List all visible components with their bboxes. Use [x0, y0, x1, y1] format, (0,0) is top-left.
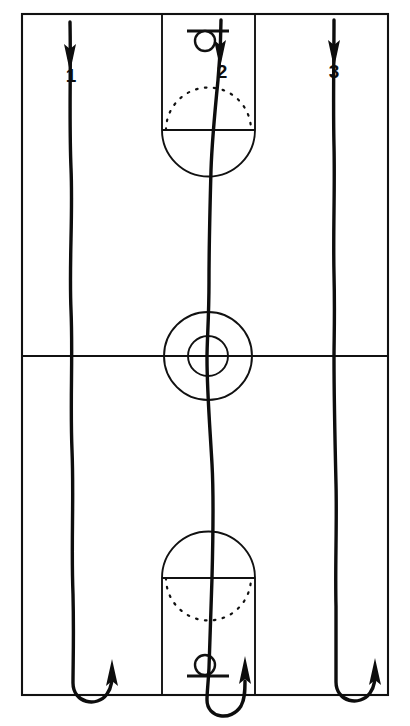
player-label-3: 3 — [329, 61, 340, 82]
free-throw-arc-bottom-dotted — [166, 578, 251, 621]
player-path-1[interactable]: 1 — [64, 22, 118, 702]
player-path-3[interactable]: 3 — [328, 20, 381, 701]
free-throw-arc-bottom-solid — [162, 532, 255, 579]
player-label-2: 2 — [217, 61, 228, 82]
player-1-route — [70, 22, 112, 702]
free-throw-arc-top-dotted — [166, 88, 251, 131]
hoop-top — [195, 31, 215, 51]
player-2-route — [207, 20, 245, 716]
hoop-bottom — [195, 655, 215, 675]
player-3-route — [334, 20, 375, 701]
player-path-2[interactable]: 2 — [207, 20, 251, 716]
basketball-court-diagram: 1 2 3 — [0, 0, 410, 726]
free-throw-arc-top-solid — [162, 130, 255, 177]
player-label-1: 1 — [66, 65, 77, 86]
court-canvas: 1 2 3 — [0, 0, 410, 726]
